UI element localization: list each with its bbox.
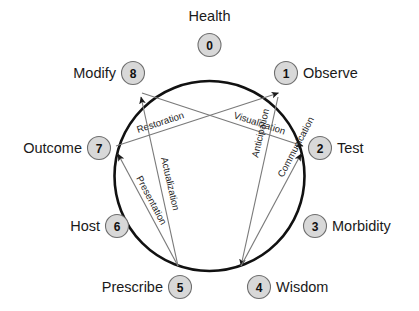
node-7-label: Outcome	[23, 140, 82, 156]
node-2-test[interactable]: 2 Test	[309, 137, 364, 160]
node-5-label: Prescribe	[102, 279, 163, 295]
node-2-label: Test	[337, 140, 364, 156]
node-5-prescribe[interactable]: Prescribe 5	[102, 276, 192, 299]
node-3-morbidity[interactable]: 3 Morbidity	[304, 215, 392, 238]
node-6-number: 6	[114, 220, 121, 234]
node-4-wisdom[interactable]: 4 Wisdom	[248, 276, 329, 299]
node-4-number: 4	[256, 281, 263, 295]
node-0-number: 0	[206, 39, 213, 53]
node-7-number: 7	[96, 142, 103, 156]
node-4-label: Wisdom	[276, 279, 328, 295]
node-6-host[interactable]: Host 6	[70, 215, 128, 238]
diagram-canvas: Restoration Visualization Presentation A…	[0, 0, 419, 311]
node-3-number: 3	[312, 220, 319, 234]
node-5-number: 5	[177, 281, 184, 295]
node-1-label: Observe	[303, 65, 358, 81]
node-8-number: 8	[130, 67, 137, 81]
edge-actualization-label: Actualization	[159, 156, 182, 211]
node-7-outcome[interactable]: Outcome 7	[23, 137, 110, 160]
node-8-modify[interactable]: Modify 8	[73, 62, 144, 85]
node-0-label: Health	[189, 8, 231, 24]
enneagram-diagram: Restoration Visualization Presentation A…	[0, 0, 419, 311]
node-3-label: Morbidity	[332, 218, 392, 234]
node-0-health[interactable]: Health 0	[189, 8, 231, 57]
node-8-label: Modify	[73, 65, 116, 81]
node-6-label: Host	[70, 218, 100, 234]
node-1-observe[interactable]: 1 Observe	[275, 62, 358, 85]
node-1-number: 1	[283, 67, 290, 81]
node-2-number: 2	[317, 142, 324, 156]
